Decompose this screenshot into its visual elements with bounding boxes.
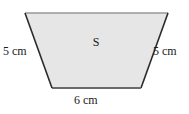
left-side-length-label: 5 cm bbox=[3, 45, 27, 57]
shape-region-label: S bbox=[89, 36, 103, 48]
bottom-side-length-label: 6 cm bbox=[74, 94, 98, 106]
geometry-figure: S 5 cm 5 cm 6 cm bbox=[0, 0, 189, 114]
right-side-length-label: 5 cm bbox=[153, 45, 177, 57]
trapezoid-shape bbox=[25, 13, 168, 88]
